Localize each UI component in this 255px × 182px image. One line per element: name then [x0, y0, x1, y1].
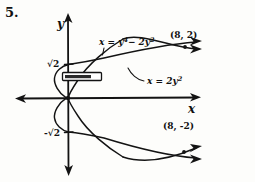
curve-quartic-lower-arrow	[190, 155, 202, 164]
tick-label-negative-sqrt2: -√2	[44, 128, 60, 138]
label-quartic: x = y4− 2y2	[98, 36, 155, 47]
y-axis-line	[68, 18, 69, 170]
worksheet-page: 5. y x √2 -√2	[0, 0, 255, 182]
point-lower-intersection-dot	[182, 150, 186, 154]
curve-quartic-upper	[54, 42, 196, 98]
point-upper-intersection-dot	[183, 45, 187, 49]
x-axis-line	[20, 98, 196, 99]
point-label-upper: (8, 2)	[170, 30, 197, 41]
label-parabola: x = 2y2	[146, 75, 183, 86]
point-origin-dot	[66, 96, 70, 100]
label-quartic-group: x = y4− 2y2	[98, 36, 155, 55]
label-parabola-group: x = 2y2	[128, 68, 183, 86]
label-parabola-leader	[128, 68, 144, 81]
representative-slice-fill	[65, 75, 91, 78]
point-label-lower: (8, -2)	[163, 121, 194, 132]
curve-parabola-lower-arrow	[190, 144, 203, 153]
x-axis-label: x	[187, 102, 196, 116]
tick-label-positive-sqrt2: √2	[47, 59, 59, 69]
problem-number: 5.	[5, 5, 19, 20]
hand-drawn-graph: 5. y x √2 -√2	[0, 0, 255, 182]
label-quartic-leader	[103, 48, 105, 55]
curve-parabola-lower-tail	[123, 148, 196, 160]
y-axis-label: y	[56, 17, 65, 31]
